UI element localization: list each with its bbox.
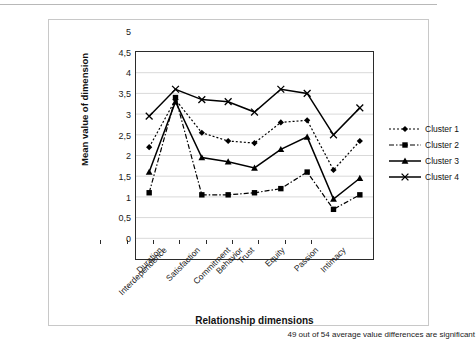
legend-symbol-square-icon (388, 139, 422, 151)
y-axis-tick-label: 1,5 (105, 173, 131, 182)
y-axis-title: Mean value of dimension (79, 45, 90, 175)
legend-item-cluster-2[interactable]: Cluster 2 (388, 137, 476, 153)
x-axis-tick (206, 240, 207, 244)
chart-annotation: 49 out of 54 average value differences a… (249, 330, 475, 339)
x-axis-tick (153, 240, 154, 244)
plot-area (135, 51, 374, 260)
x-axis-tick (179, 240, 180, 244)
legend-label: Cluster 3 (425, 156, 459, 166)
y-axis-tick-label: 0,5 (105, 214, 131, 223)
y-axis-tick-label: 4 (105, 69, 131, 78)
y-axis-ticks: 54,543,532,521,510,50 (101, 20, 131, 347)
data-series-layer (136, 52, 373, 259)
legend-label: Cluster 2 (425, 140, 459, 150)
page-top-rule (0, 4, 437, 5)
y-axis-tick-label: 4,5 (105, 49, 131, 58)
legend-symbol-diamond-icon (388, 123, 422, 135)
y-axis-tick-label: 5 (105, 28, 131, 37)
legend-item-cluster-3[interactable]: Cluster 3 (388, 153, 476, 169)
legend-symbol-triangle-icon (388, 155, 422, 167)
y-axis-tick-label: 1 (105, 194, 131, 203)
x-axis-tick (100, 240, 101, 244)
x-axis-tick (232, 240, 233, 244)
x-axis-title: Relationship dimensions (135, 315, 374, 326)
legend-label: Cluster 1 (425, 124, 459, 134)
y-axis-tick-label: 3,5 (105, 90, 131, 99)
legend-item-cluster-1[interactable]: Cluster 1 (388, 121, 476, 137)
y-axis-tick-label: 2,5 (105, 132, 131, 141)
legend-symbol-cross-icon (388, 171, 422, 183)
chart-container: Mean value of dimension 54,543,532,521,5… (48, 19, 429, 326)
legend-item-cluster-4[interactable]: Cluster 4 (388, 169, 476, 185)
chart-legend: Cluster 1Cluster 2Cluster 3Cluster 4 (388, 121, 476, 185)
y-axis-tick-label: 2 (105, 152, 131, 161)
y-axis-tick-label: 3 (105, 111, 131, 120)
legend-label: Cluster 4 (425, 172, 459, 182)
x-axis-tick (311, 240, 312, 244)
x-axis-tick (127, 240, 128, 244)
x-axis-tick (258, 240, 259, 244)
x-axis-tick (285, 240, 286, 244)
